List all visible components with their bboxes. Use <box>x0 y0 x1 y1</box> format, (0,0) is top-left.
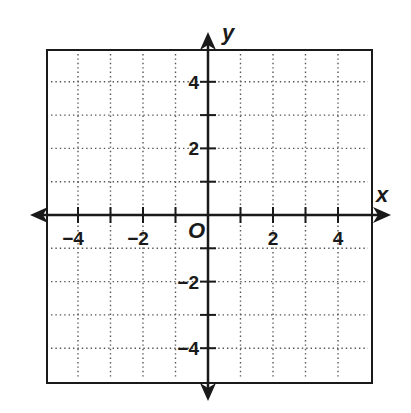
y-axis-label: y <box>221 20 236 45</box>
origin-label: O <box>188 218 205 243</box>
x-tick-label: −2 <box>127 228 149 249</box>
plot-frame <box>47 50 372 383</box>
y-tick-label: 4 <box>188 72 199 93</box>
x-tick-label: −4 <box>62 228 84 249</box>
y-tick-label: 2 <box>188 138 199 159</box>
x-tick-label: 2 <box>268 228 279 249</box>
y-tick-label: −4 <box>177 338 199 359</box>
coordinate-plane: −4−224 42−2−4 x y O <box>0 0 411 413</box>
x-tick-label: 4 <box>333 228 344 249</box>
x-axis-label: x <box>375 182 389 207</box>
y-tick-label: −2 <box>177 272 199 293</box>
grid-lines <box>51 54 368 379</box>
